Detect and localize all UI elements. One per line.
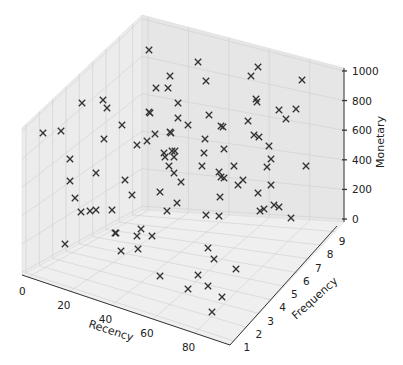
y-tick-label: 2 <box>255 328 262 340</box>
z-tick-label: 200 <box>352 183 372 195</box>
z-tick-label: 1000 <box>352 65 379 77</box>
y-tick-label: 6 <box>303 275 310 287</box>
x-tick-label: 20 <box>57 299 70 311</box>
x-tick-label: 60 <box>140 327 153 339</box>
y-tick-label: 5 <box>291 288 298 300</box>
y-tick-label: 7 <box>315 262 322 274</box>
y-tick-label: 9 <box>339 235 346 247</box>
scatter-3d-chart: 02004006008001000020406080123456789 Rece… <box>0 0 403 365</box>
x-tick-label: 80 <box>182 341 195 353</box>
y-tick-label: 3 <box>267 315 274 327</box>
z-axis-label: Monetary <box>374 115 387 168</box>
pane-back <box>142 15 344 222</box>
z-tick-label: 400 <box>352 154 372 166</box>
y-tick-label: 1 <box>244 341 251 353</box>
y-tick-label: 4 <box>279 301 286 313</box>
z-tick-label: 0 <box>352 213 359 225</box>
x-tick-label: 0 <box>19 285 26 297</box>
y-tick-label: 8 <box>327 248 334 260</box>
z-tick-label: 600 <box>352 124 372 136</box>
z-tick-label: 800 <box>352 95 372 107</box>
